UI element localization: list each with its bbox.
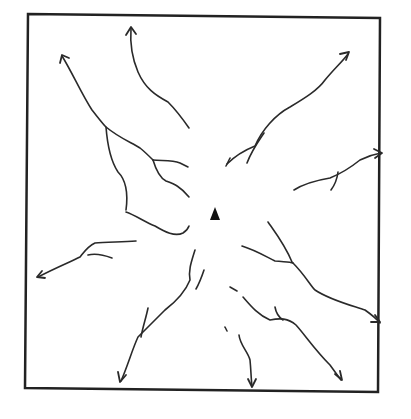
stream-northwest	[60, 55, 189, 210]
peak-triangle-icon	[210, 207, 220, 220]
stream-southeast-lower	[230, 287, 342, 380]
stream-southeast-upper	[242, 222, 380, 323]
map-frame	[25, 14, 380, 392]
radial-drainage-diagram	[0, 0, 411, 419]
stream-west-inner	[126, 212, 189, 234]
stream-south-southwest	[118, 250, 204, 382]
stream-north	[126, 27, 189, 128]
stream-northeast	[226, 52, 349, 166]
stream-east	[294, 149, 382, 190]
stream-southwest	[37, 241, 136, 278]
stream-south	[225, 327, 256, 387]
